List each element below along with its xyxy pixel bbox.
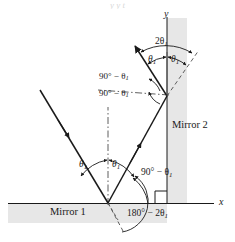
angle-theta1-reflected-mirror2: θ1 xyxy=(148,55,156,65)
y-axis-label: y xyxy=(164,9,168,19)
angle-180-minus-2theta1: 180° − 2θ1 xyxy=(127,209,168,219)
angle-theta1-reflected-mirror1-subscript: 1 xyxy=(117,163,120,170)
mirror-1-label: Mirror 1 xyxy=(50,207,86,218)
angle-theta1-reflected-mirror2-subscript: 1 xyxy=(153,58,156,65)
angle-90-minus-theta1-mirror1: 90° − θ1 xyxy=(141,168,172,178)
incident-ray xyxy=(40,90,108,203)
angle-90-minus-theta1-mirror1-text: 90° − θ xyxy=(141,167,169,177)
angle-180-minus-2theta1-text: 180° − 2θ xyxy=(127,208,164,218)
figure-root: y y t xyxy=(0,0,235,242)
angle-90-minus-theta1-upper-subscript: 1 xyxy=(126,74,129,81)
angle-2theta1-mirror2-subscript: 1 xyxy=(164,40,167,47)
angle-theta1-reflected-mirror1: θ1 xyxy=(112,160,120,170)
reflected-ray-direction-arrow xyxy=(130,145,140,163)
angle-2theta1-mirror2-text: 2θ xyxy=(155,36,164,46)
angle-180-minus-2theta1-subscript: 1 xyxy=(164,212,167,219)
angle-theta1-incident-mirror2-subscript: 1 xyxy=(176,58,179,65)
arc-90-minus-theta1-upper xyxy=(149,79,160,91)
right-angle-mark xyxy=(155,191,167,203)
angle-theta1-incident-mirror1: θ1 xyxy=(79,160,87,170)
angle-90-minus-theta1-upper: 90° − θ1 xyxy=(99,72,129,82)
angle-90-minus-theta1-lower: 90° − θ1 xyxy=(99,89,129,99)
angle-90-minus-theta1-upper-text: 90° − θ xyxy=(99,71,126,81)
x-axis-label: x xyxy=(219,197,223,207)
angle-90-minus-theta1-lower-text: 90° − θ xyxy=(99,88,126,98)
angle-90-minus-theta1-mirror1-subscript: 1 xyxy=(169,171,172,178)
mirror-2-label: Mirror 2 xyxy=(172,120,208,131)
angle-theta1-incident-mirror2: θ1 xyxy=(171,55,179,65)
angle-90-minus-theta1-lower-subscript: 1 xyxy=(126,91,129,98)
angle-2theta1-mirror2: 2θ1 xyxy=(155,37,168,47)
incident-ray-direction-arrow xyxy=(58,120,68,136)
angle-theta1-incident-mirror1-subscript: 1 xyxy=(84,163,87,170)
